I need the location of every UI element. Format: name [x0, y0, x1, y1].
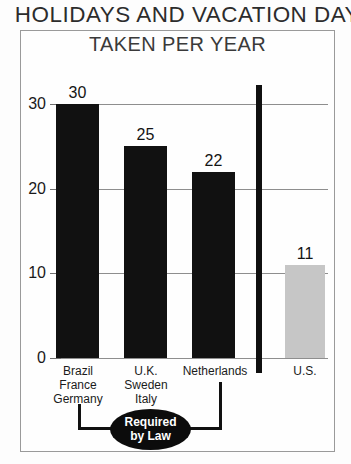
bar-us — [285, 265, 325, 358]
bar-value-uk-sweden-italy: 25 — [124, 126, 167, 144]
category-label-brazil-france-germany: Brazil France Germany — [46, 364, 110, 406]
category-label-us: U.S. — [283, 364, 327, 378]
bar-value-us: 11 — [285, 245, 325, 263]
bar-netherlands — [192, 172, 235, 358]
bar-brazil-france-germany — [56, 104, 99, 358]
ytick-label-20: 20 — [16, 180, 46, 198]
category-line: Brazil — [46, 364, 110, 378]
ytick-label-10: 10 — [16, 264, 46, 282]
chart-title-line1: HOLIDAYS AND VACATION DAYS — [15, 2, 339, 28]
bar-value-brazil-france-germany: 30 — [56, 84, 99, 102]
plot-area: 0 10 20 30 30 25 22 11 Brazil France Ger… — [0, 0, 351, 464]
category-label-uk-sweden-italy: U.K. Sweden Italy — [114, 364, 178, 406]
bar-value-netherlands: 22 — [192, 152, 235, 170]
ytick-label-0: 0 — [16, 349, 46, 367]
ytick-dash-0 — [50, 358, 61, 359]
badge-line-1: Required — [110, 415, 191, 429]
chart-page: HOLIDAYS AND VACATION DAYS TAKEN PER YEA… — [0, 0, 351, 464]
bracket-right-arm — [219, 382, 222, 430]
ytick-label-30: 30 — [16, 95, 46, 113]
badge-line-2: by Law — [110, 429, 191, 443]
category-label-netherlands: Netherlands — [180, 364, 250, 378]
category-line: Netherlands — [180, 364, 250, 378]
category-line: Sweden — [114, 378, 178, 392]
required-by-law-badge: Required by Law — [110, 409, 191, 450]
group-separator-line — [256, 85, 262, 373]
category-line: Italy — [114, 392, 178, 406]
category-line: U.S. — [283, 364, 327, 378]
bar-uk-sweden-italy — [124, 146, 167, 358]
category-line: U.K. — [114, 364, 178, 378]
category-line: France — [46, 378, 110, 392]
gridline-0 — [50, 358, 328, 359]
